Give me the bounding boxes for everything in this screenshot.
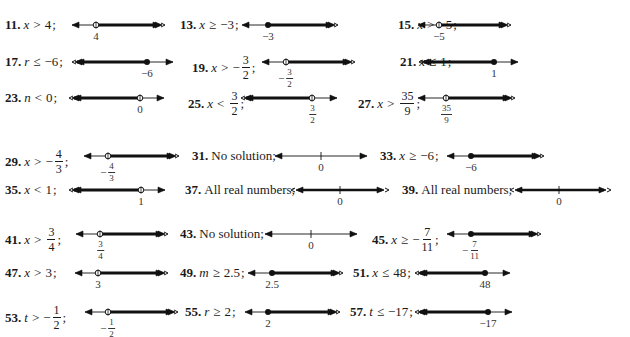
problem-number: 39.	[402, 182, 418, 198]
problem-number: 11.	[5, 17, 21, 33]
problem-number: 17.	[5, 54, 21, 70]
bound-fraction: 711	[422, 226, 434, 253]
semicolon: ;	[52, 17, 56, 33]
number-line	[242, 265, 346, 281]
bound-value: 1	[45, 182, 52, 198]
semicolon: ;	[59, 54, 63, 70]
answer-31: 31.No solution;	[192, 148, 276, 164]
problem-number: 25.	[188, 96, 204, 112]
answer-13: 13.x≥−3;	[180, 17, 239, 33]
answer-45: 45.x≥−711;	[372, 226, 439, 253]
variable: t	[369, 304, 373, 320]
denominator: 9	[444, 115, 449, 125]
bound-value: 2	[224, 304, 231, 320]
label-fraction: 32	[309, 104, 316, 125]
variable: r	[24, 54, 29, 70]
problem-number: 47.	[5, 265, 21, 281]
semicolon: ;	[435, 148, 439, 164]
variable: x	[399, 148, 405, 164]
label-sign: −	[278, 72, 284, 84]
semicolon: ;	[54, 90, 58, 106]
number-line-label: 34	[95, 240, 105, 261]
number-line	[412, 265, 516, 281]
relation-symbol: ≥	[401, 232, 408, 248]
variable: x	[199, 17, 205, 33]
bound-fraction: 34	[47, 226, 55, 253]
relation-symbol: >	[32, 310, 39, 326]
relation-symbol: >	[34, 154, 41, 170]
semicolon: ;	[65, 154, 69, 170]
answer-29: 29.x>−43;	[5, 148, 68, 175]
relation-symbol: ≤	[382, 265, 389, 281]
label-value: 0	[137, 103, 143, 115]
label-value: 1	[138, 195, 144, 207]
variable: m	[199, 265, 208, 281]
bound-value: 48	[393, 265, 406, 281]
label-value: 4	[93, 30, 99, 42]
semicolon: ;	[435, 232, 439, 248]
variable: x	[372, 265, 378, 281]
bound-fraction: 12	[53, 304, 61, 331]
answer-23: 23.n<0;	[5, 90, 57, 106]
semicolon: ;	[53, 182, 57, 198]
denominator: 3	[56, 162, 62, 175]
relation-symbol: ≥	[213, 304, 220, 320]
number-line-label: 1	[491, 68, 497, 79]
numerator: 3	[242, 54, 250, 68]
closed-endpoint	[468, 231, 474, 237]
bound-sign: −	[45, 154, 52, 170]
label-value: 3	[95, 278, 101, 290]
bound-sign: −	[412, 232, 419, 248]
relation-symbol: ≥	[209, 17, 216, 33]
answer-41: 41.x>34;	[5, 226, 61, 253]
problem-number: 41.	[5, 232, 21, 248]
closed-endpoint	[485, 309, 491, 315]
relation-symbol: <	[35, 90, 42, 106]
problem-number: 33.	[380, 148, 396, 164]
number-line-label: 0	[556, 196, 562, 207]
label-value: 2.5	[265, 278, 279, 290]
bound-sign: −	[43, 310, 50, 326]
variable: x	[24, 265, 30, 281]
bound-value: 0	[46, 90, 53, 106]
number-line-label: −6	[141, 68, 153, 79]
bound-value: −17	[388, 304, 408, 320]
numerator: 3	[309, 104, 316, 115]
denominator: 2	[310, 115, 315, 125]
bound-value: −6	[44, 54, 58, 70]
number-line	[412, 90, 518, 106]
bound-value: −6	[420, 148, 434, 164]
answer-17: 17.r≤−6;	[5, 54, 63, 70]
label-value: −5	[433, 30, 445, 42]
label-value: 0	[308, 239, 314, 251]
number-line	[79, 304, 181, 320]
variable: x	[24, 182, 30, 198]
label-fraction: 711	[470, 240, 479, 261]
variable: x	[24, 232, 30, 248]
numerator: 7	[471, 240, 478, 251]
bound-value: 2.5	[224, 265, 240, 281]
number-line	[239, 304, 343, 320]
number-line	[70, 226, 171, 242]
bound-value: 3	[45, 265, 52, 281]
denominator: 2	[109, 329, 114, 337]
number-line-label: 0	[318, 162, 324, 173]
semicolon: ;	[252, 60, 256, 76]
numerator: 3	[97, 240, 104, 251]
number-line-label: 4	[93, 31, 99, 42]
label-value: 0	[337, 195, 343, 207]
relation-symbol: <	[34, 182, 41, 198]
number-line-label: 2.5	[265, 279, 279, 290]
problem-number: 29.	[5, 154, 21, 170]
variable: x	[24, 17, 30, 33]
label-value: −6	[141, 67, 153, 79]
semicolon: ;	[63, 310, 67, 326]
answer-text: All real numbers;	[421, 182, 512, 198]
denominator: 11	[470, 251, 479, 261]
denominator: 4	[98, 251, 103, 261]
label-value: 0	[318, 161, 324, 173]
problem-number: 57.	[350, 304, 366, 320]
number-line-label: 1	[138, 196, 144, 207]
relation-symbol: >	[34, 232, 41, 248]
number-line-label: 2	[265, 318, 271, 329]
